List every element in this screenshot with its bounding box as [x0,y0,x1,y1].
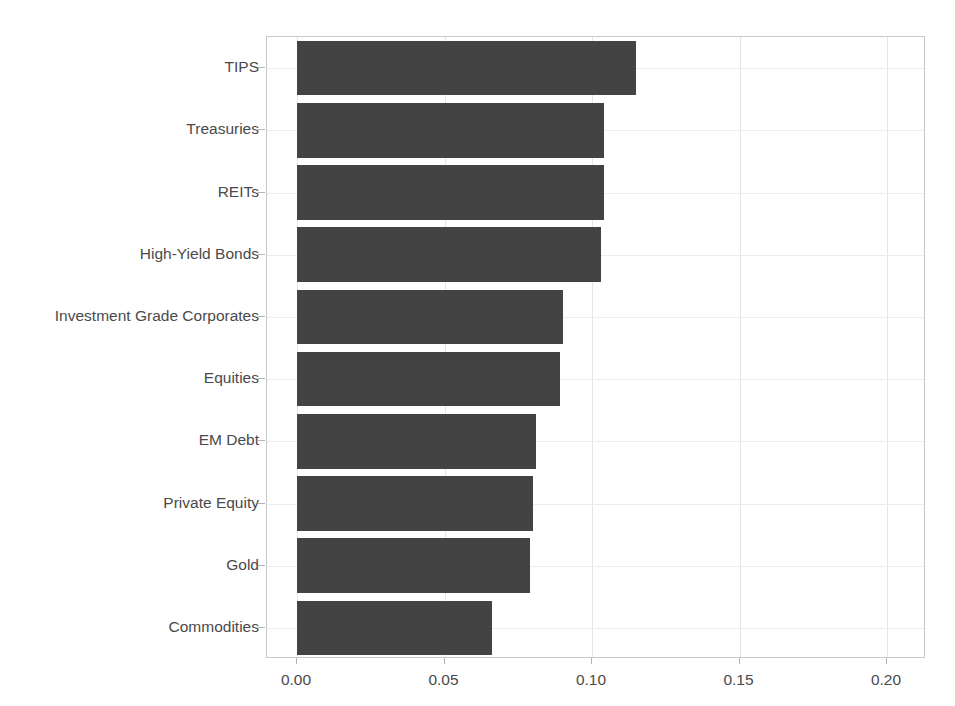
bar-private-equity [297,476,533,530]
y-tick-mark [258,378,265,379]
x-tick-mark [444,658,445,664]
x-tick-label: 0.00 [281,672,311,688]
y-tick-mark [258,254,265,255]
x-tick-label: 0.10 [576,672,606,688]
bars-layer [267,37,924,657]
bar-chart: TIPSTreasuriesREITsHigh-Yield BondsInves… [0,0,955,706]
y-tick-mark [258,627,265,628]
bar-high-yield-bonds [297,227,601,281]
bar-tips [297,41,636,95]
bar-treasuries [297,103,604,157]
y-tick-mark [258,67,265,68]
bar-equities [297,352,560,406]
x-tick-mark [886,658,887,664]
plot-area [266,36,925,658]
y-tick-label: TIPS [225,59,259,75]
x-tick-mark [296,658,297,664]
bar-commodities [297,601,492,655]
bar-investment-grade-corporates [297,290,563,344]
y-tick-label: Equities [204,370,259,386]
y-axis: TIPSTreasuriesREITsHigh-Yield BondsInves… [0,0,259,706]
y-tick-label: High-Yield Bonds [140,246,259,262]
bar-em-debt [297,414,536,468]
y-tick-mark [258,316,265,317]
y-tick-label: Investment Grade Corporates [55,308,259,324]
bar-gold [297,538,530,592]
y-tick-mark [258,440,265,441]
y-tick-mark [258,192,265,193]
y-tick-label: Commodities [169,619,259,635]
y-tick-label: Gold [226,557,259,573]
x-tick-mark [739,658,740,664]
y-tick-label: Private Equity [163,495,259,511]
y-tick-label: Treasuries [186,122,259,138]
x-tick-label: 0.05 [428,672,458,688]
x-tick-label: 0.15 [723,672,753,688]
y-tick-label: REITs [218,184,259,200]
bar-reits [297,165,604,219]
x-tick-mark [591,658,592,664]
x-tick-label: 0.20 [871,672,901,688]
y-tick-mark [258,565,265,566]
y-tick-label: EM Debt [199,433,259,449]
